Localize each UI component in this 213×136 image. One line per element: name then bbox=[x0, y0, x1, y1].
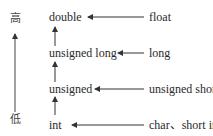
high-label: 高 bbox=[10, 13, 21, 25]
type-int: int bbox=[49, 119, 62, 131]
arrows-layer bbox=[0, 0, 213, 136]
type-double: double bbox=[49, 11, 82, 23]
type-conversion-diagram: 高 低 double unsigned long unsigned int fl… bbox=[0, 0, 213, 136]
source-unsigned-short: unsigned short bbox=[149, 83, 213, 95]
source-long: long bbox=[149, 47, 170, 59]
source-float: float bbox=[149, 11, 171, 23]
type-unsigned: unsigned bbox=[49, 83, 92, 95]
source-char-short-int: char、short int bbox=[149, 119, 213, 131]
type-unsigned-long: unsigned long bbox=[49, 47, 117, 59]
low-label: 低 bbox=[10, 114, 21, 126]
